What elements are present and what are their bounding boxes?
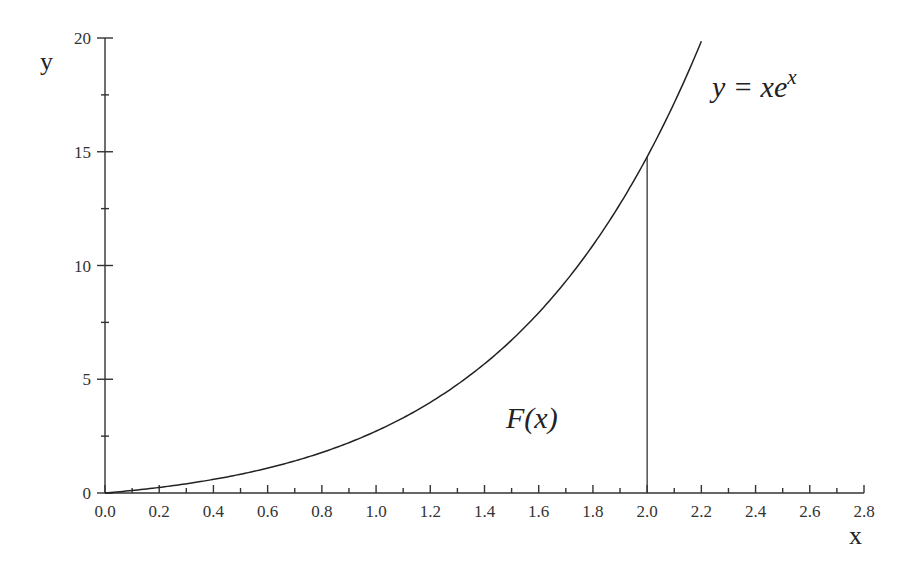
y-axis-title: y [40, 47, 53, 76]
curve-label: y = xex [709, 65, 797, 103]
y-tick-labels: 05101520 [74, 29, 91, 503]
x-axis-title: x [849, 521, 862, 550]
curve-xex [105, 41, 701, 493]
y-tick-label: 15 [74, 143, 91, 162]
chart: 0.00.20.40.60.81.01.21.41.61.82.02.22.42… [0, 0, 917, 577]
x-tick-label: 1.0 [365, 502, 386, 521]
x-tick-label: 0.0 [94, 502, 115, 521]
x-tick-label: 2.2 [691, 502, 712, 521]
x-tick-label: 2.4 [745, 502, 767, 521]
x-tick-label: 0.4 [203, 502, 225, 521]
x-tick-label: 2.8 [853, 502, 874, 521]
x-tick-label: 0.6 [257, 502, 278, 521]
y-tick-label: 5 [83, 370, 92, 389]
x-tick-label: 1.2 [420, 502, 441, 521]
x-tick-label: 2.6 [799, 502, 820, 521]
x-tick-label: 2.0 [637, 502, 658, 521]
curve-label-main: y = xe [709, 70, 787, 103]
y-tick-label: 20 [74, 29, 91, 48]
x-tick-label: 0.8 [311, 502, 332, 521]
y-tick-label: 0 [83, 484, 92, 503]
x-tick-labels: 0.00.20.40.60.81.01.21.41.61.82.02.22.42… [94, 502, 874, 521]
area-label: F(x) [505, 401, 558, 435]
x-tick-label: 1.6 [528, 502, 549, 521]
curve-label-superscript: x [786, 65, 797, 89]
x-tick-label: 1.8 [582, 502, 603, 521]
x-tick-label: 0.2 [149, 502, 170, 521]
y-tick-label: 10 [74, 257, 91, 276]
axes [97, 38, 864, 493]
x-tick-label: 1.4 [474, 502, 496, 521]
